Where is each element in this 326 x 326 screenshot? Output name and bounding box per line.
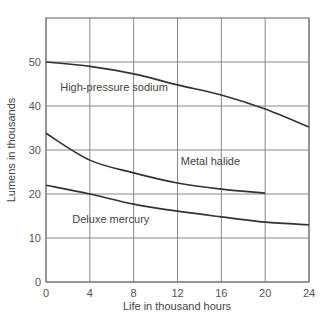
- x-axis-ticks: 04812162024: [43, 287, 315, 299]
- series-label-high-pressure-sodium: High-pressure sodium: [60, 81, 168, 93]
- y-tick-label: 30: [29, 144, 41, 156]
- x-tick-label: 0: [43, 287, 49, 299]
- series-label-metal-halide: Metal halide: [181, 155, 240, 167]
- lumen-depreciation-chart: High-pressure sodiumMetal halideDeluxe m…: [0, 0, 326, 326]
- x-tick-label: 4: [87, 287, 93, 299]
- series-labels: High-pressure sodiumMetal halideDeluxe m…: [60, 81, 240, 225]
- y-axis-ticks: 01020304050: [29, 56, 41, 288]
- y-tick-label: 0: [35, 276, 41, 288]
- x-tick-label: 24: [303, 287, 315, 299]
- x-tick-label: 12: [171, 287, 183, 299]
- y-tick-label: 10: [29, 232, 41, 244]
- x-tick-label: 16: [215, 287, 227, 299]
- grid-lines: [46, 18, 309, 282]
- y-tick-label: 50: [29, 56, 41, 68]
- series-label-deluxe-mercury: Deluxe mercury: [72, 213, 150, 225]
- y-tick-label: 20: [29, 188, 41, 200]
- x-tick-label: 20: [259, 287, 271, 299]
- y-axis-label: Lumens in thousands: [5, 97, 17, 202]
- x-tick-label: 8: [131, 287, 137, 299]
- x-axis-label: Life in thousand hours: [123, 300, 232, 312]
- y-tick-label: 40: [29, 100, 41, 112]
